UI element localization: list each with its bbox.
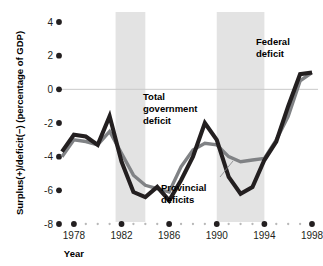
x-tick-dot-1998 bbox=[309, 221, 315, 227]
x-minor-tick-dot bbox=[287, 223, 289, 225]
y-tick-label: -8 bbox=[44, 219, 53, 230]
x-minor-tick-dot bbox=[180, 223, 182, 225]
y-axis-title: Surplus(+)/deficit(−) (percentage of GDP… bbox=[14, 31, 25, 215]
y-tick-dot--6 bbox=[56, 187, 62, 193]
deficit-line-chart: 420-2-4-6-8 197819821986199019941998 Tot… bbox=[0, 0, 323, 266]
x-minor-tick-dot bbox=[144, 223, 146, 225]
x-minor-tick-dot bbox=[108, 223, 110, 225]
shaded-band-0 bbox=[116, 12, 146, 222]
x-minor-tick-dot bbox=[85, 223, 87, 225]
x-tick-dot-1994 bbox=[261, 221, 267, 227]
x-minor-tick-dot bbox=[299, 223, 301, 225]
y-tick-label: 4 bbox=[47, 17, 53, 28]
x-tick-label: 1978 bbox=[63, 230, 86, 241]
y-tick-label: -6 bbox=[44, 185, 53, 196]
x-tick-dot-1982 bbox=[119, 221, 125, 227]
x-minor-tick-dot bbox=[204, 223, 206, 225]
x-tick-dot-1986 bbox=[166, 221, 172, 227]
x-tick-dot-1990 bbox=[214, 221, 220, 227]
y-tick-dot--4 bbox=[56, 154, 62, 160]
y-tick-dot-2 bbox=[56, 53, 62, 59]
x-minor-tick-dot bbox=[97, 223, 99, 225]
y-tick-label: -2 bbox=[44, 118, 53, 129]
x-tick-label: 1990 bbox=[206, 230, 229, 241]
x-minor-tick-dot bbox=[239, 223, 241, 225]
y-tick-dot--8 bbox=[56, 221, 62, 227]
x-minor-tick-dot bbox=[251, 223, 253, 225]
x-tick-dot-1978 bbox=[71, 221, 77, 227]
y-tick-label: 2 bbox=[47, 50, 53, 61]
x-minor-tick-dot bbox=[132, 223, 134, 225]
x-tick-label: 1982 bbox=[110, 230, 133, 241]
y-tick-dot--2 bbox=[56, 120, 62, 126]
x-tick-label: 1986 bbox=[158, 230, 181, 241]
y-tick-label: 0 bbox=[47, 84, 53, 95]
y-tick-dot-0 bbox=[56, 86, 62, 92]
x-axis-title: Year bbox=[64, 248, 84, 259]
x-tick-label: 1998 bbox=[301, 230, 323, 241]
x-minor-tick-dot bbox=[192, 223, 194, 225]
y-tick-label: -4 bbox=[44, 151, 53, 162]
x-tick-label: 1994 bbox=[253, 230, 276, 241]
y-tick-dot-4 bbox=[56, 19, 62, 25]
x-minor-tick-dot bbox=[156, 223, 158, 225]
x-minor-tick-dot bbox=[275, 223, 277, 225]
x-minor-tick-dot bbox=[228, 223, 230, 225]
chart-container: 420-2-4-6-8 197819821986199019941998 Tot… bbox=[0, 0, 323, 266]
